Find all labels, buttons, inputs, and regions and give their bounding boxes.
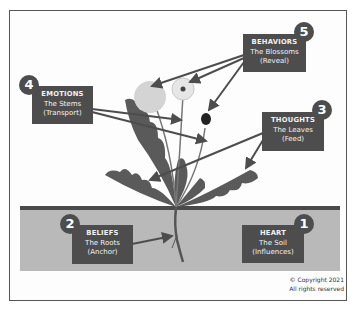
label-thoughts: THOUGHTS The Leaves (Feed): [262, 112, 324, 151]
bud-icon: [201, 113, 211, 125]
label-behaviors: BEHAVIORS The Blossoms (Reveal): [243, 34, 306, 72]
label-role: (Transport): [32, 109, 93, 119]
label-beliefs: BELIEFS The Roots (Anchor): [72, 225, 133, 264]
badge-5: 5: [294, 22, 314, 42]
label-emotions: EMOTIONS The Stems (Transport): [32, 86, 93, 124]
badge-2: 2: [60, 214, 80, 234]
badge-4: 4: [19, 75, 39, 95]
root-icon: [175, 208, 183, 262]
rights-line: All rights reserved: [289, 285, 344, 294]
label-subtitle: The Leaves: [262, 126, 324, 136]
label-heart: HEART The Soil (Influences): [242, 225, 304, 263]
copyright-notice: © Copyright 2021 All rights reserved: [289, 276, 344, 293]
label-subtitle: The Roots: [72, 239, 133, 249]
badge-1: 1: [294, 214, 314, 234]
label-subtitle: The Blossoms: [243, 48, 306, 58]
label-title: BELIEFS: [72, 229, 133, 239]
label-role: (Influences): [242, 248, 304, 258]
label-role: (Anchor): [72, 248, 133, 258]
copyright-line: © Copyright 2021: [289, 276, 344, 285]
seed-head-icon: [134, 81, 166, 113]
label-subtitle: The Soil: [242, 239, 304, 249]
badge-3: 3: [312, 100, 332, 120]
label-title: EMOTIONS: [32, 90, 93, 100]
label-role: (Reveal): [243, 57, 306, 67]
label-title: HEART: [242, 229, 304, 239]
label-role: (Feed): [262, 135, 324, 145]
label-subtitle: The Stems: [32, 100, 93, 110]
